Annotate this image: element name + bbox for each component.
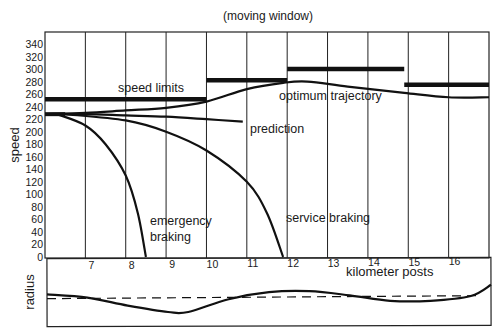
x-tick-label: 10 [207, 258, 219, 270]
y-tick-label: 160 [25, 151, 43, 163]
speed-axis-ticks: 0204060801001201401601802002202402602803… [25, 38, 43, 263]
x-tick-label: 9 [169, 258, 175, 270]
chart-title: (moving window) [223, 9, 313, 23]
y-tick-label: 240 [25, 101, 43, 113]
emergency-braking-label-2: braking [150, 230, 191, 244]
emergency-braking-label-1: emergency [150, 214, 213, 228]
y-tick-label: 220 [25, 113, 43, 125]
radius-axis-label: radius [22, 274, 37, 310]
x-axis-label: kilometer posts [346, 264, 434, 279]
y-tick-label: 280 [25, 76, 43, 88]
y-tick-label: 40 [31, 226, 43, 238]
x-tick-label: 16 [449, 255, 461, 267]
service-braking-label: service braking [286, 211, 370, 225]
y-tick-label: 300 [25, 63, 43, 75]
emergency-braking-curve [57, 114, 146, 257]
y-tick-label: 340 [25, 38, 43, 50]
y-tick-label: 200 [25, 126, 43, 138]
y-tick-label: 140 [25, 163, 43, 175]
speed-axis-label: speed [7, 127, 22, 162]
x-tick-label: 8 [129, 259, 135, 271]
y-tick-label: 100 [25, 188, 43, 200]
y-tick-label: 120 [25, 176, 43, 188]
speed-profile-chart: (moving window) 020406080100120140160180… [0, 0, 502, 336]
optimum-trajectory-label: optimum trajectory [279, 89, 383, 103]
y-tick-label: 180 [25, 138, 43, 150]
y-tick-label: 260 [25, 88, 43, 100]
y-tick-label: 80 [31, 201, 43, 213]
y-tick-label: 60 [31, 213, 43, 225]
prediction-label: prediction [250, 122, 304, 136]
speed-limits-label: speed limits [118, 81, 184, 95]
radius-curve [47, 285, 491, 313]
x-tick-label: 13 [328, 257, 340, 269]
y-tick-label: 0 [37, 251, 43, 263]
y-tick-label: 320 [25, 51, 43, 63]
speed-plot-frame [45, 32, 489, 258]
y-tick-label: 20 [31, 238, 43, 250]
x-tick-label: 11 [247, 257, 258, 269]
radius-reference-dashed [47, 296, 481, 299]
x-tick-label: 7 [88, 259, 94, 271]
x-tick-label: 12 [287, 257, 299, 269]
